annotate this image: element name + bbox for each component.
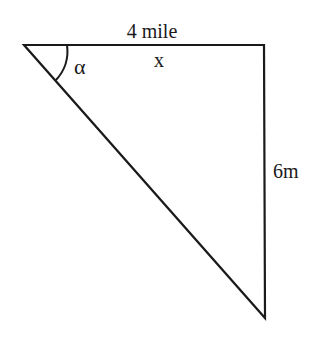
angle-arc xyxy=(56,45,67,80)
right-triangle xyxy=(24,45,265,318)
top-side-length-label: 4 mile xyxy=(127,20,178,42)
triangle-diagram: 4 mile x α 6m xyxy=(0,0,318,337)
angle-alpha-label: α xyxy=(74,54,86,79)
right-side-length-label: 6m xyxy=(273,160,299,182)
top-side-variable-label: x xyxy=(154,49,164,71)
